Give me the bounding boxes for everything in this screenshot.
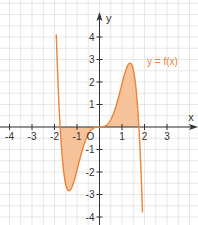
x-axis-label: x	[188, 111, 194, 123]
x-tick-label: -4	[5, 131, 14, 142]
y-tick-label: 1	[89, 99, 95, 110]
function-graph: -4-3-2-1123-4-3-2-11234xyOy = f(x)	[0, 0, 198, 225]
x-tick-label: 1	[119, 131, 125, 142]
x-tick-label: 2	[142, 131, 148, 142]
axes	[0, 12, 198, 225]
x-tick-label: -1	[73, 131, 82, 142]
y-tick-label: 4	[89, 32, 95, 43]
x-tick-label: -2	[50, 131, 59, 142]
x-tick-label: 3	[164, 131, 170, 142]
y-tick-label: 3	[89, 54, 95, 65]
origin-label: O	[87, 131, 95, 142]
y-tick-label: -3	[86, 189, 95, 200]
function-label: y = f(x)	[147, 56, 178, 67]
y-tick-label: -4	[86, 212, 95, 223]
y-tick-label: 2	[89, 77, 95, 88]
y-axis-label: y	[106, 12, 112, 24]
x-tick-label: -3	[28, 131, 37, 142]
y-tick-label: -1	[86, 144, 95, 155]
y-tick-label: -2	[86, 167, 95, 178]
